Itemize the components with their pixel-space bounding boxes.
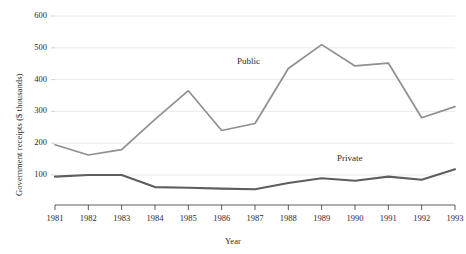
y-tick-label: 500 (21, 42, 47, 52)
y-tick-label: 600 (21, 10, 47, 20)
y-axis-title: Government receipts ($ thousands) (14, 0, 24, 196)
x-axis (51, 16, 455, 210)
y-tick-label: 300 (21, 105, 47, 115)
x-axis-title: Year (0, 236, 466, 246)
series-line-private (55, 169, 455, 189)
series-lines (55, 45, 455, 190)
y-tick-label: 400 (21, 74, 47, 84)
y-tick-label: 200 (21, 137, 47, 147)
series-label-public: Public (237, 56, 260, 66)
y-tick-label: 100 (21, 169, 47, 179)
series-label-private: Private (337, 153, 363, 163)
line-chart: Government receipts ($ thousands) Year 1… (0, 0, 466, 254)
x-tick-label: 1993 (435, 213, 466, 223)
